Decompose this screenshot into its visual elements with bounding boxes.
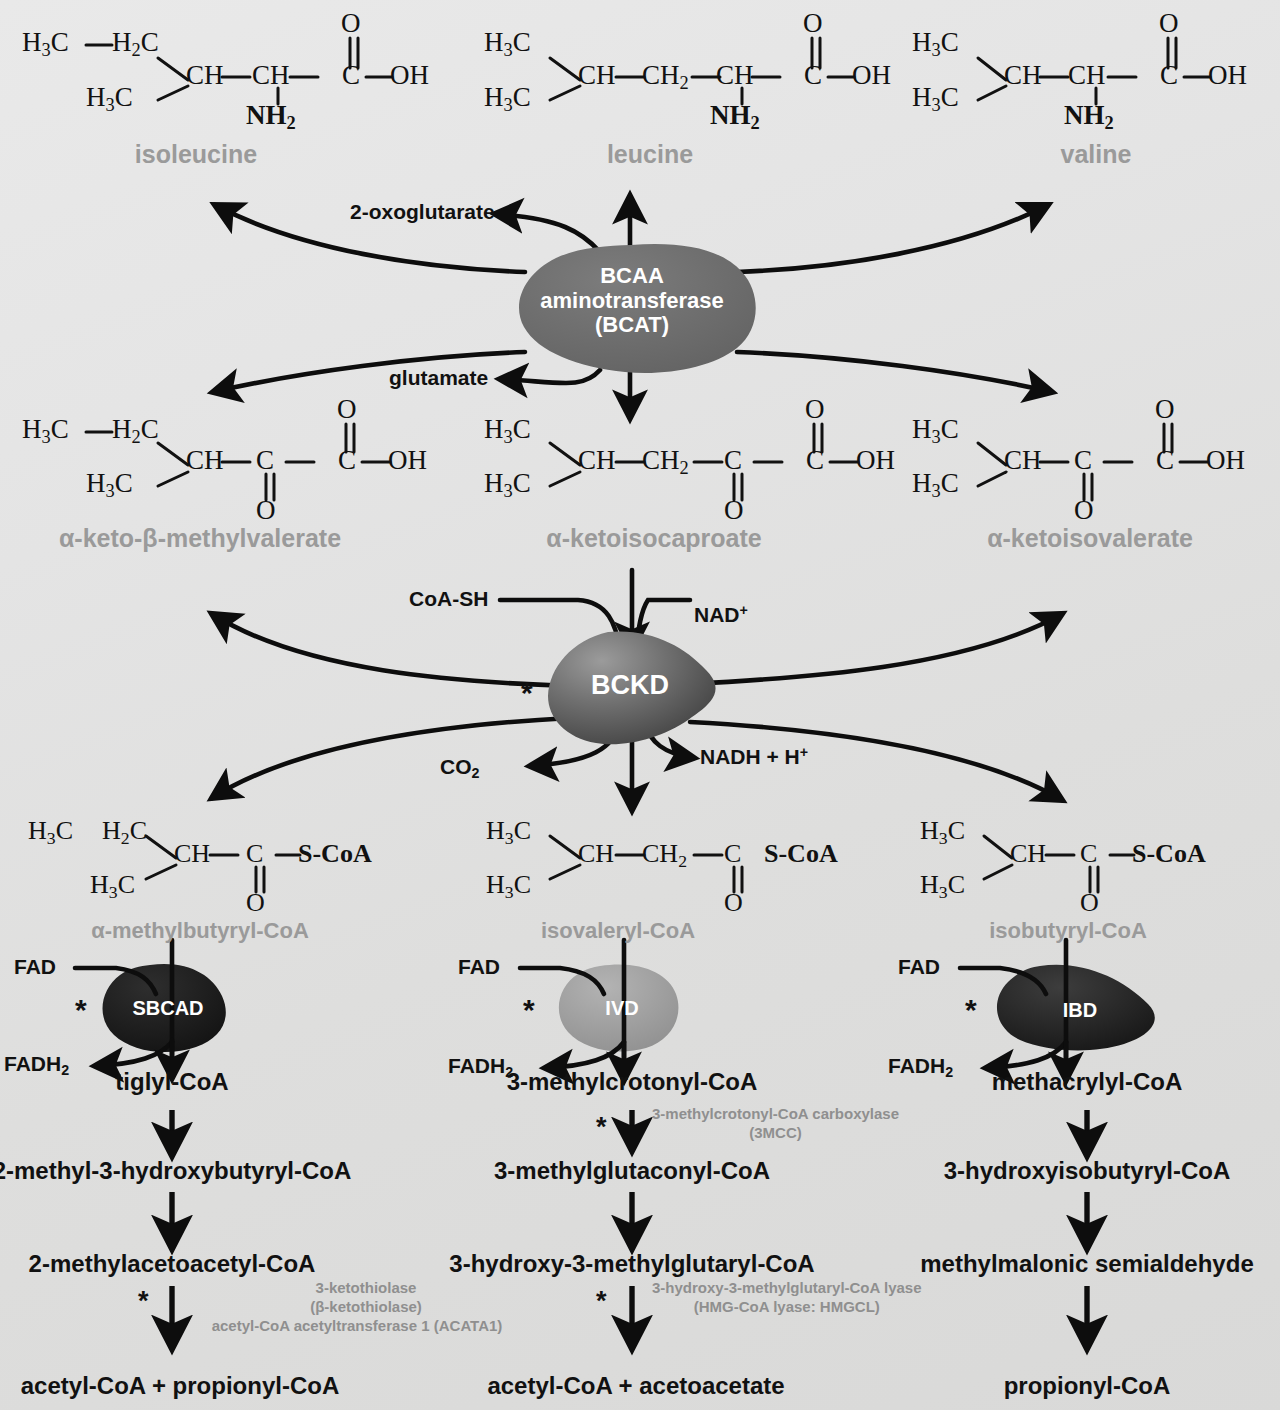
compound-keto-methylvalerate: α-keto-β-methylvalerate xyxy=(59,524,341,553)
step-3-methylglutaconyl-coa: 3-methylglutaconyl-CoA xyxy=(494,1157,770,1185)
cofactor-fadh2: FADH2 xyxy=(4,1052,69,1078)
enzyme-label-bcat[interactable]: BCAA aminotransferase (BCAT) xyxy=(522,264,742,338)
atom-ch: CH xyxy=(578,839,614,869)
compound-methylbutyryl-coa: α-methylbutyryl-CoA xyxy=(91,918,309,944)
atom-c: C xyxy=(246,839,263,869)
asterisk-3mcc: * xyxy=(596,1114,607,1141)
step-methylmalonic-semialdehyde: methylmalonic semialdehyde xyxy=(920,1250,1253,1278)
atom-c: C xyxy=(1156,445,1174,476)
atom-oh: OH xyxy=(852,60,891,91)
enzyme-label-ivd[interactable]: IVD xyxy=(562,997,682,1019)
cofactor-nadh: NADH + H+ xyxy=(700,744,808,769)
step-acetyl-coa-acetoacetate: acetyl-CoA + acetoacetate xyxy=(487,1372,784,1400)
annotation-hmgcl-line1: 3-hydroxy-3-methylglutaryl-CoA lyase xyxy=(652,1279,922,1298)
enzyme-label-sbcad[interactable]: SBCAD xyxy=(98,997,238,1019)
cofactor-fad: FAD xyxy=(458,955,500,979)
atom-o: O xyxy=(1159,8,1179,39)
atom-h2c: H2C xyxy=(112,414,159,448)
atom-c: C xyxy=(1074,445,1092,476)
cofactor-fad: FAD xyxy=(898,955,940,979)
atom-h3c: H3C xyxy=(486,870,531,903)
atom-o: O xyxy=(724,888,743,918)
atom-ch2: CH2 xyxy=(642,839,687,872)
atom-o: O xyxy=(337,394,357,425)
atom-ch: CH xyxy=(1004,60,1042,91)
cofactor-fadh2: FADH2 xyxy=(888,1054,953,1080)
atom-h3c: H3C xyxy=(920,816,965,849)
atom-h2c: H2C xyxy=(112,27,159,61)
compound-ketoisovalerate: α-ketoisovalerate xyxy=(987,524,1193,553)
asterisk-hmgcl: * xyxy=(596,1288,607,1315)
annotation-hmgcl-line2: (HMG-CoA lyase: HMGCL) xyxy=(652,1298,922,1317)
atom-h3c: H3C xyxy=(484,414,531,448)
cofactor-coa-sh: CoA-SH xyxy=(409,587,488,611)
atom-ch: CH xyxy=(578,60,616,91)
atom-s-coa: S-CoA xyxy=(764,839,838,869)
compound-leucine: leucine xyxy=(607,140,693,169)
atom-h3c: H3C xyxy=(86,468,133,502)
atom-c: C xyxy=(724,839,741,869)
arrow-layer xyxy=(0,0,1280,1419)
annotation-hmgcl: 3-hydroxy-3-methylglutaryl-CoA lyase (HM… xyxy=(652,1279,922,1317)
cofactor-2-oxoglutarate: 2-oxoglutarate xyxy=(350,200,495,224)
step-2-methyl-3-hydroxybutyryl-coa: 2-methyl-3-hydroxybutyryl-CoA xyxy=(0,1157,351,1185)
compound-valine: valine xyxy=(1061,140,1132,169)
atom-ch2: CH2 xyxy=(642,445,689,479)
atom-nh2: NH2 xyxy=(246,100,296,134)
atom-ch: CH xyxy=(186,445,224,476)
atom-o: O xyxy=(246,888,265,918)
atom-s-coa: S-CoA xyxy=(298,839,372,869)
atom-o: O xyxy=(256,495,276,526)
annotation-acata1: 3-ketothiolase (β-ketothiolase) acetyl-C… xyxy=(196,1279,536,1335)
atom-ch2: CH2 xyxy=(642,60,689,94)
atom-c: C xyxy=(338,445,356,476)
step-3-hydroxyisobutyryl-coa: 3-hydroxyisobutyryl-CoA xyxy=(944,1157,1231,1185)
step-tiglyl-coa: tiglyl-CoA xyxy=(115,1068,228,1096)
atom-h3c: H3C xyxy=(912,468,959,502)
enzyme-bcat-line1: BCAA xyxy=(522,264,742,289)
enzyme-label-bckd[interactable]: BCKD xyxy=(540,670,720,700)
compound-ketoisocaproate: α-ketoisocaproate xyxy=(546,524,761,553)
atom-o: O xyxy=(1074,495,1094,526)
atom-oh: OH xyxy=(856,445,895,476)
atom-ch: CH xyxy=(1004,445,1042,476)
atom-h3c: H3C xyxy=(86,82,133,116)
atom-h3c: H3C xyxy=(920,870,965,903)
step-methacrylyl-coa: methacrylyl-CoA xyxy=(992,1068,1183,1096)
cofactor-fadh2: FADH2 xyxy=(448,1054,513,1080)
atom-oh: OH xyxy=(1206,445,1245,476)
atom-o: O xyxy=(803,8,823,39)
enzyme-label-ibd[interactable]: IBD xyxy=(1020,999,1140,1021)
atom-h3c: H3C xyxy=(484,468,531,502)
pathway-diagram: H3C H2C H3C CH CH C O OH NH2 H3C H3C CH … xyxy=(0,0,1280,1419)
atom-h2c: H2C xyxy=(102,816,147,849)
atom-o: O xyxy=(1080,888,1099,918)
atom-o: O xyxy=(341,8,361,39)
atom-ch: CH xyxy=(174,839,210,869)
atom-ch: CH xyxy=(1068,60,1106,91)
asterisk-ibd: * xyxy=(965,995,977,1025)
annotation-3mcc-line1: 3-methylcrotonyl-CoA carboxylase xyxy=(652,1105,899,1124)
atom-h3c: H3C xyxy=(28,816,73,849)
asterisk-sbcad: * xyxy=(75,995,87,1025)
enzyme-bcat-line3: (BCAT) xyxy=(522,313,742,338)
annotation-acata1-line1: 3-ketothiolase xyxy=(196,1279,536,1298)
step-acetyl-coa-propionyl-coa: acetyl-CoA + propionyl-CoA xyxy=(21,1372,339,1400)
annotation-3mcc-line2: (3MCC) xyxy=(652,1124,899,1143)
atom-c: C xyxy=(256,445,274,476)
atom-h3c: H3C xyxy=(90,870,135,903)
cofactor-co2: CO2 xyxy=(440,755,479,781)
step-propionyl-coa: propionyl-CoA xyxy=(1004,1372,1171,1400)
cofactor-nad: NAD+ xyxy=(694,602,748,627)
cofactor-fad: FAD xyxy=(14,955,56,979)
annotation-acata1-line3: acetyl-CoA acetyltransferase 1 (ACATA1) xyxy=(178,1317,536,1336)
atom-c: C xyxy=(804,60,822,91)
asterisk-acata1: * xyxy=(138,1288,149,1315)
step-2-methylacetoacetyl-coa: 2-methylacetoacetyl-CoA xyxy=(29,1250,316,1278)
atom-oh: OH xyxy=(1208,60,1247,91)
step-3-hydroxy-3-methylglutaryl-coa: 3-hydroxy-3-methylglutaryl-CoA xyxy=(449,1250,814,1278)
atom-h3c: H3C xyxy=(484,27,531,61)
atom-nh2: NH2 xyxy=(1064,100,1114,134)
atom-h3c: H3C xyxy=(22,414,69,448)
atom-ch: CH xyxy=(716,60,754,91)
